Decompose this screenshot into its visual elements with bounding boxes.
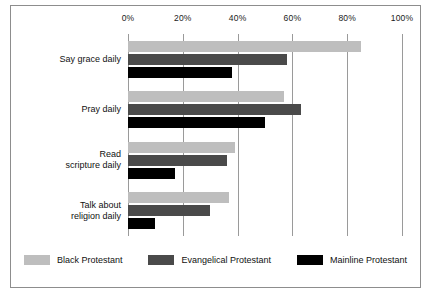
bar-group [128, 186, 402, 237]
bar-row [128, 218, 402, 229]
chart-frame: Say grace dailyPray dailyReadscripture d… [10, 5, 421, 288]
bar-row [128, 142, 402, 153]
category-label: Talk aboutreligion daily [15, 200, 121, 222]
bar [128, 218, 155, 229]
legend-swatch-icon [297, 255, 323, 265]
bar [128, 117, 265, 128]
category-axis-labels: Say grace dailyPray dailyReadscripture d… [11, 34, 121, 236]
bar-row [128, 104, 402, 115]
bar [128, 142, 235, 153]
bar-row [128, 155, 402, 166]
legend-label: Mainline Protestant [330, 255, 407, 265]
legend-label: Evangelical Protestant [181, 255, 271, 265]
gridline-100pct [402, 34, 403, 236]
bar-row [128, 41, 402, 52]
category-label: Readscripture daily [15, 149, 121, 171]
legend-item[interactable]: Mainline Protestant [297, 255, 407, 265]
bar-row [128, 67, 402, 78]
chart-legend: Black ProtestantEvangelical ProtestantMa… [11, 250, 420, 270]
bar-group [128, 85, 402, 136]
bar-row [128, 168, 402, 179]
bar [128, 91, 284, 102]
bar [128, 168, 175, 179]
bar [128, 192, 229, 203]
legend-label: Black Protestant [57, 255, 123, 265]
axis-tick-label: 100% [391, 13, 414, 23]
category-label: Say grace daily [15, 54, 121, 65]
bar [128, 205, 210, 216]
bar [128, 67, 232, 78]
axis-tick-label: 0% [122, 13, 135, 23]
bar [128, 155, 227, 166]
bar [128, 54, 287, 65]
legend-swatch-icon [24, 255, 50, 265]
axis-tick-label: 20% [174, 13, 192, 23]
axis-tick-label: 40% [229, 13, 247, 23]
plot-area: 0%20%40%60%80%100% [128, 34, 402, 236]
legend-item[interactable]: Evangelical Protestant [148, 255, 271, 265]
bar-row [128, 192, 402, 203]
axis-tick-label: 60% [284, 13, 302, 23]
bar-row [128, 91, 402, 102]
category-label-line: Read [15, 149, 121, 160]
category-label: Pray daily [15, 104, 121, 115]
bar-row [128, 54, 402, 65]
bar-row [128, 205, 402, 216]
category-label-line: Pray daily [15, 104, 121, 115]
bar-row [128, 117, 402, 128]
legend-item[interactable]: Black Protestant [24, 255, 123, 265]
axis-tick-label: 80% [338, 13, 356, 23]
legend-swatch-icon [148, 255, 174, 265]
bar [128, 41, 361, 52]
bar-group [128, 34, 402, 85]
category-label-line: scripture daily [15, 160, 121, 171]
category-label-line: Talk about [15, 200, 121, 211]
category-label-line: religion daily [15, 211, 121, 222]
category-label-line: Say grace daily [15, 54, 121, 65]
bar [128, 104, 301, 115]
bar-group [128, 135, 402, 186]
